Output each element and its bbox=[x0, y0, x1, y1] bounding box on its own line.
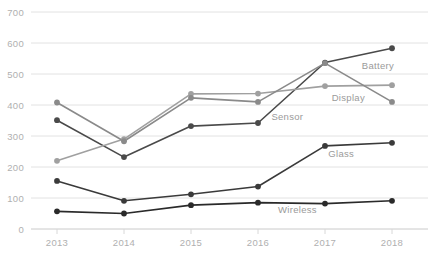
data-point-display-2013 bbox=[54, 158, 60, 164]
y-tick-label-400: 400 bbox=[7, 100, 24, 111]
y-tick-label-500: 500 bbox=[7, 69, 24, 80]
series-label-battery: Battery bbox=[362, 60, 394, 71]
x-tick-label-2018: 2018 bbox=[381, 237, 403, 248]
data-point-battery-2013 bbox=[54, 117, 60, 123]
chart-canvas: 0100200300400500600700 20132014201520162… bbox=[0, 0, 443, 259]
x-tick-label-2016: 2016 bbox=[247, 237, 269, 248]
data-point-battery-2018 bbox=[389, 45, 395, 51]
series-label-display: Display bbox=[332, 92, 365, 103]
series-line-wireless bbox=[57, 201, 392, 214]
x-axis-line bbox=[31, 229, 428, 234]
x-tick-label-2017: 2017 bbox=[314, 237, 336, 248]
data-point-wireless-2015 bbox=[188, 202, 194, 208]
data-point-sensor-2017 bbox=[322, 60, 328, 66]
data-point-sensor-2013 bbox=[54, 100, 60, 106]
data-point-glass-2016 bbox=[255, 184, 261, 190]
y-axis-tick-labels: 0100200300400500600700 bbox=[7, 7, 24, 235]
data-point-display-2017 bbox=[322, 83, 328, 89]
data-point-display-2016 bbox=[255, 91, 261, 97]
x-axis-tick-labels: 201320142015201620172018 bbox=[46, 237, 403, 248]
data-point-wireless-2018 bbox=[389, 198, 395, 204]
data-point-display-2018 bbox=[389, 82, 395, 88]
data-point-glass-2017 bbox=[322, 143, 328, 149]
data-point-sensor-2014 bbox=[121, 138, 127, 144]
data-point-sensor-2015 bbox=[188, 95, 194, 101]
series-label-sensor: Sensor bbox=[271, 111, 303, 122]
data-point-battery-2016 bbox=[255, 120, 261, 126]
gridlines bbox=[31, 12, 428, 229]
line-chart: 0100200300400500600700 20132014201520162… bbox=[0, 0, 443, 259]
data-point-battery-2014 bbox=[121, 154, 127, 160]
data-point-wireless-2016 bbox=[255, 200, 261, 206]
data-point-wireless-2017 bbox=[322, 201, 328, 207]
x-tick-label-2014: 2014 bbox=[113, 237, 135, 248]
y-tick-label-300: 300 bbox=[7, 131, 24, 142]
y-tick-label-0: 0 bbox=[18, 224, 24, 235]
data-point-wireless-2013 bbox=[54, 208, 60, 214]
series-label-glass: Glass bbox=[328, 148, 354, 159]
data-point-sensor-2018 bbox=[389, 99, 395, 105]
data-point-glass-2018 bbox=[389, 140, 395, 146]
y-tick-label-200: 200 bbox=[7, 162, 24, 173]
data-point-glass-2013 bbox=[54, 178, 60, 184]
data-point-glass-2015 bbox=[188, 191, 194, 197]
y-tick-label-600: 600 bbox=[7, 38, 24, 49]
y-tick-label-700: 700 bbox=[7, 7, 24, 18]
x-tick-label-2013: 2013 bbox=[46, 237, 68, 248]
data-point-sensor-2016 bbox=[255, 99, 261, 105]
series-lines bbox=[57, 48, 392, 213]
series-label-wireless: Wireless bbox=[278, 204, 317, 215]
data-point-wireless-2014 bbox=[121, 211, 127, 217]
y-tick-label-100: 100 bbox=[7, 193, 24, 204]
data-point-glass-2014 bbox=[121, 198, 127, 204]
x-tick-label-2015: 2015 bbox=[180, 237, 202, 248]
data-point-battery-2015 bbox=[188, 123, 194, 129]
